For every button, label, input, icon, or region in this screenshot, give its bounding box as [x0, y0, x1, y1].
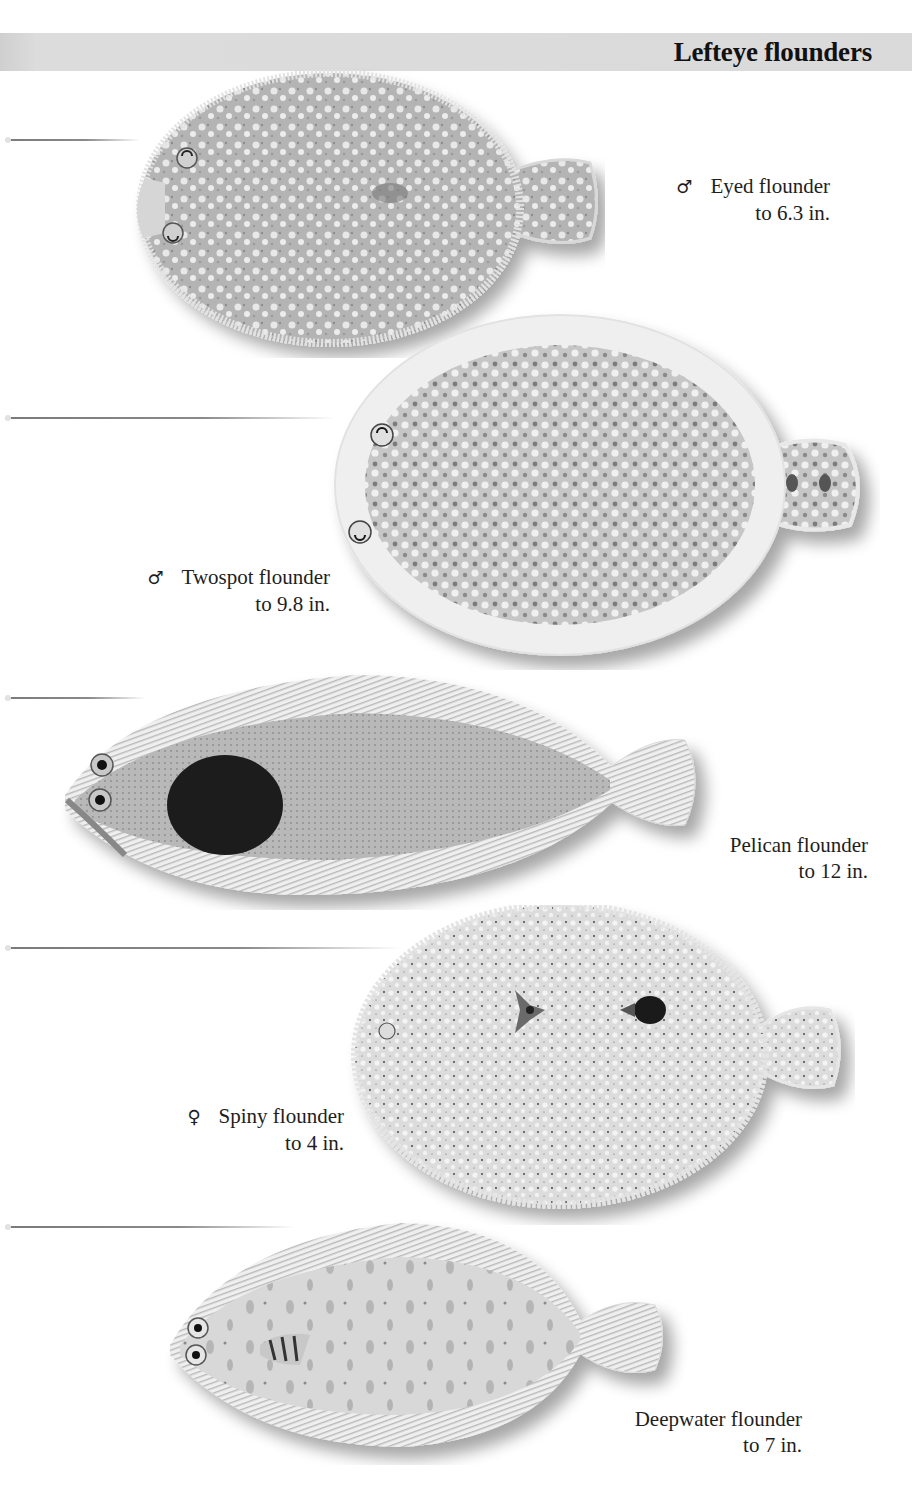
twospot-flounder-illustration	[320, 300, 880, 670]
species-name: Spiny flounder	[219, 1104, 344, 1128]
species-name: Eyed flounder	[710, 174, 830, 198]
section-header-bar: Lefteye flounders	[0, 33, 912, 71]
species-size: to 12 in.	[640, 858, 868, 884]
species-label-pelican: Pelican flounder to 12 in.	[640, 832, 868, 884]
leader-line-eyed	[5, 139, 140, 141]
species-label-deepwater: Deepwater flounder to 7 in.	[560, 1406, 802, 1458]
species-size: to 4 in.	[120, 1130, 344, 1156]
male-symbol-icon: ♂	[676, 174, 692, 200]
leader-line-twospot	[5, 417, 335, 419]
female-symbol-icon: ♀	[187, 1104, 200, 1130]
species-size: to 6.3 in.	[600, 200, 830, 226]
species-size: to 9.8 in.	[80, 591, 330, 617]
species-name: Pelican flounder	[640, 832, 868, 858]
species-size: to 7 in.	[560, 1432, 802, 1458]
dark-patch	[167, 755, 283, 855]
species-name: Deepwater flounder	[560, 1406, 802, 1432]
male-symbol-icon: ♂	[147, 565, 163, 591]
species-label-spiny: ♀Spiny flounder to 4 in.	[120, 1103, 344, 1156]
page-title: Lefteye flounders	[674, 34, 872, 70]
species-label-eyed: ♂Eyed flounder to 6.3 in.	[600, 173, 830, 226]
species-label-twospot: ♂Twospot flounder to 9.8 in.	[80, 564, 330, 617]
spiny-flounder-illustration	[345, 905, 855, 1225]
leader-line-spiny	[5, 947, 400, 949]
species-name: Twospot flounder	[182, 565, 330, 589]
